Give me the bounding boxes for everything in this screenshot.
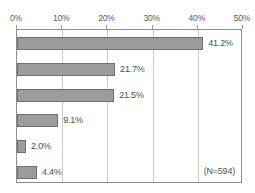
x-axis-tick-mark — [242, 25, 243, 29]
gridline — [153, 30, 154, 182]
x-axis-tick-label: 10% — [53, 14, 69, 23]
x-axis-tick-label: 50% — [234, 14, 250, 23]
bar-row: 2.0% — [17, 140, 243, 153]
bar — [17, 89, 114, 102]
bar-row: 21.7% — [17, 63, 243, 76]
bar-value-label: 41.2% — [208, 37, 233, 50]
gridline — [62, 30, 63, 182]
x-axis-tick-label: 20% — [98, 14, 114, 23]
bar-row: 41.2% — [17, 37, 243, 50]
x-axis-tick-label: 0% — [10, 14, 22, 23]
bar — [17, 37, 203, 50]
bar — [17, 140, 26, 153]
bar — [17, 63, 115, 76]
bar — [17, 166, 37, 179]
plot-area: 41.2%21.7%21.5%9.1%2.0%4.4% (N=594) — [16, 29, 242, 183]
gridline — [198, 30, 199, 182]
x-axis-tick-label: 30% — [143, 14, 159, 23]
bar-row: 9.1% — [17, 114, 243, 127]
bar-value-label: 9.1% — [63, 114, 83, 127]
bar-value-label: 4.4% — [42, 166, 62, 179]
x-axis-tick-label: 40% — [189, 14, 205, 23]
bar-row: 21.5% — [17, 89, 243, 102]
sample-size-annotation: (N=594) — [204, 166, 235, 176]
bar-value-label: 2.0% — [31, 140, 51, 153]
gridline — [107, 30, 108, 182]
bar-chart: 0%10%20%30%40%50% 41.2%21.7%21.5%9.1%2.0… — [0, 0, 255, 193]
bar — [17, 114, 58, 127]
bar-value-label: 21.7% — [120, 63, 145, 76]
bar-value-label: 21.5% — [119, 89, 144, 102]
